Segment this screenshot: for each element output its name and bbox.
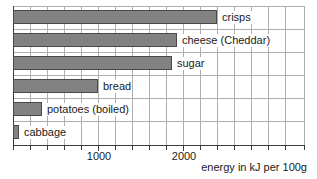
gridline-horizontal xyxy=(13,75,305,76)
bar-label-potatoes-boiled: potatoes (boiled) xyxy=(46,103,130,116)
x-axis-tick xyxy=(251,146,252,150)
bar-crisps xyxy=(13,10,217,24)
gridline-horizontal xyxy=(13,29,305,30)
x-axis-tick xyxy=(200,146,201,150)
x-tick-label-1000: 1000 xyxy=(87,150,111,162)
x-axis-tick xyxy=(81,146,82,150)
gridline-horizontal xyxy=(13,52,305,53)
bar-label-bread: bread xyxy=(102,80,132,93)
bar-sugar xyxy=(13,56,172,70)
x-axis-tick xyxy=(285,146,286,150)
bar-label-cabbage: cabbage xyxy=(23,126,67,139)
x-axis-line xyxy=(13,145,305,146)
bar-cheese-cheddar xyxy=(13,33,177,47)
bar-label-cheese-cheddar: cheese (Cheddar) xyxy=(181,34,271,47)
bar-cabbage xyxy=(13,125,19,139)
bar-bread xyxy=(13,79,98,93)
x-axis-tick xyxy=(166,146,167,150)
x-axis-tick xyxy=(115,146,116,150)
bar-potatoes-boiled xyxy=(13,102,42,116)
x-axis-title: energy in kJ per 100g xyxy=(201,161,307,174)
x-axis-tick xyxy=(149,146,150,150)
energy-bar-chart: 1000 2000 crisps cheese (Cheddar) sugar … xyxy=(0,0,317,179)
gridline-horizontal xyxy=(13,121,305,122)
x-axis-tick xyxy=(304,146,305,150)
x-axis-tick xyxy=(217,146,218,150)
x-axis-tick xyxy=(132,146,133,150)
plot-area xyxy=(13,6,305,145)
x-axis-tick xyxy=(30,146,31,150)
x-axis-tick xyxy=(268,146,269,150)
x-axis-tick xyxy=(47,146,48,150)
bar-label-sugar: sugar xyxy=(176,57,206,70)
x-tick-label-2000: 2000 xyxy=(172,150,196,162)
x-axis-tick xyxy=(13,146,14,150)
gridline-horizontal xyxy=(13,98,305,99)
gridline-horizontal xyxy=(13,6,305,7)
x-axis-tick xyxy=(64,146,65,150)
bar-label-crisps: crisps xyxy=(221,11,252,24)
x-axis-tick xyxy=(234,146,235,150)
